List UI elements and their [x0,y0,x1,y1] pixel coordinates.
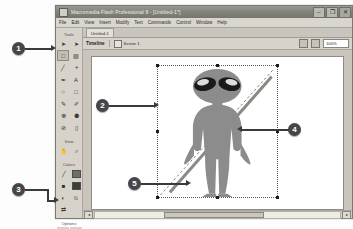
callout-marker-3: 3 [12,183,25,196]
callout-leader-4 [242,129,289,131]
fill-color-bucket-icon: ■ [58,180,70,191]
line-tool[interactable]: ╱ [57,62,69,73]
fill-swatches-row: ■ [57,180,81,191]
callout-marker-4: 4 [288,123,301,136]
view-section-label: View [57,139,81,144]
rectangle-tool[interactable]: □ [70,86,82,97]
ink-bottle-tool[interactable]: ☸ [57,110,69,121]
scene-icon [114,40,122,48]
flash-app-icon [59,8,68,17]
view-tools-grid: ✋ ⌕ [57,145,81,156]
transform-handle-bottom-right[interactable] [276,196,279,199]
callout-leader-3a [25,189,49,191]
rotate-and-skew-option[interactable]: ↻ [70,227,82,229]
window-title: Macromedia Flash Professional 8 - [Untit… [71,9,311,15]
application-body: Tools ➤ ➤ □ ▨ ╱ ⰰ ✒ A ○ □ ✎ ✐ ☸ ⚉ ⊘ [56,28,352,218]
transform-handle-middle-left[interactable] [156,130,159,133]
callout-marker-5: 5 [128,177,141,190]
menu-item-insert[interactable]: Insert [99,20,111,25]
scene-bar-divider [109,40,110,47]
timeline-label[interactable]: Timeline [86,41,105,46]
stage-area [83,50,352,210]
paint-bucket-tool[interactable]: ⚉ [70,110,82,121]
callout-arrowhead-1 [51,45,56,51]
transform-handle-top-center[interactable] [216,64,219,67]
document-tab-strip: Untitled-1 [83,28,352,38]
color-swatches-row: ╱ [57,168,81,179]
callout-arrowhead-5 [186,180,191,186]
menu-item-help[interactable]: Help [217,20,226,25]
menu-item-control[interactable]: Control [176,20,191,25]
colors-section-label: Colors [57,162,81,167]
zoom-tool[interactable]: ⌕ [70,145,82,156]
gradient-transform-tool[interactable]: ▨ [70,50,82,61]
scene-name-label: Scene 1 [124,41,140,46]
menu-item-edit[interactable]: Edit [71,20,79,25]
fill-color-swatch[interactable] [72,182,81,190]
brush-tool[interactable]: ✐ [70,98,82,109]
menu-item-view[interactable]: View [84,20,94,25]
callout-marker-1: 1 [12,42,25,55]
oval-tool[interactable]: ○ [57,86,69,97]
close-button[interactable]: ✕ [339,7,351,18]
scene-bar-right-controls: 100% [299,39,349,48]
selection-tool[interactable]: ➤ [57,38,69,49]
menu-item-window[interactable]: Window [196,20,212,25]
callout-marker-2: 2 [96,99,109,112]
window-controls: – ❐ ✕ [313,7,351,18]
text-tool[interactable]: A [70,74,82,85]
alien-character-artwork [158,66,276,198]
pencil-tool[interactable]: ✎ [57,98,69,109]
pen-tool[interactable]: ✒ [57,74,69,85]
callout-leader-1 [25,48,52,50]
restore-button[interactable]: ❐ [326,7,338,18]
snap-to-objects-option[interactable]: ⬚ [57,227,69,229]
scrollbar-track[interactable] [94,211,341,219]
stroke-color-swatch[interactable] [72,170,81,178]
color-modifiers-grid: ◐ ⍉ ⇄ [57,192,81,215]
workspace: Untitled-1 Timeline Scene 1 100% [83,28,352,218]
minimize-button[interactable]: – [313,7,325,18]
transform-handle-top-left[interactable] [156,64,159,67]
options-section-label: Options [57,221,81,226]
scrollbar-thumb[interactable] [164,212,264,218]
zoom-level-combobox[interactable]: 100% [323,39,349,48]
tools-grid: ➤ ➤ □ ▨ ╱ ⰰ ✒ A ○ □ ✎ ✐ ☸ ⚉ ⊘ ▯ [57,38,81,133]
scene-chip[interactable]: Scene 1 [114,40,140,48]
callout-arrowhead-2 [154,102,159,108]
edit-symbols-icon[interactable] [311,39,320,48]
free-transform-tool[interactable]: □ [57,50,69,61]
callout-arrowhead-3 [54,197,59,203]
hand-tool[interactable]: ✋ [57,145,69,156]
transform-handle-bottom-center[interactable] [216,196,219,199]
menu-item-modify[interactable]: Modify [116,20,130,25]
stroke-color-pencil-icon: ╱ [58,168,70,179]
selection-bounding-box[interactable] [157,65,277,199]
scroll-right-button[interactable]: ▸ [342,211,351,219]
title-bar[interactable]: Macromedia Flash Professional 8 - [Untit… [56,6,352,18]
horizontal-scrollbar[interactable]: ◂ ▸ [83,210,352,218]
menu-item-commands[interactable]: Commands [148,20,172,25]
no-color-icon[interactable]: ⍉ [70,192,82,203]
scroll-left-button[interactable]: ◂ [84,211,93,219]
transform-handle-top-right[interactable] [276,64,279,67]
menu-item-file[interactable]: File [59,20,66,25]
swap-colors-icon[interactable]: ⇄ [57,204,69,215]
screenshot-root: Macromedia Flash Professional 8 - [Untit… [0,0,353,229]
tools-panel: Tools ➤ ➤ □ ▨ ╱ ⰰ ✒ A ○ □ ✎ ✐ ☸ ⚉ ⊘ [56,28,83,218]
callout-leader-5 [141,183,187,185]
callout-leader-2 [109,105,155,107]
eyedropper-tool[interactable]: ⊘ [57,122,69,133]
menu-item-text[interactable]: Text [134,20,142,25]
lasso-tool[interactable]: ⰰ [70,62,82,73]
eraser-tool[interactable]: ▯ [70,122,82,133]
subselection-tool[interactable]: ➤ [70,38,82,49]
transform-handle-bottom-left[interactable] [156,196,159,199]
alien-character[interactable] [158,66,276,198]
timeline-scene-bar: Timeline Scene 1 100% [83,38,352,50]
flash-application-window: Macromedia Flash Professional 8 - [Untit… [55,5,353,219]
edit-scene-icon[interactable] [299,39,308,48]
document-tab-untitled-1[interactable]: Untitled-1 [86,28,114,37]
options-grid: ⬚ ↻ ⬌ ◱ ▦ [57,227,81,229]
menu-bar: File Edit View Insert Modify Text Comman… [56,18,352,28]
